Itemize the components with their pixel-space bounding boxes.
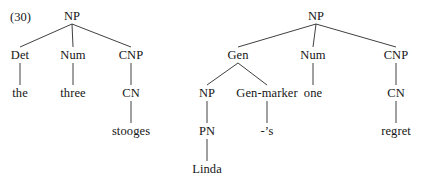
tree-node-l-num: Num [60,49,85,62]
tree-node-r-cnp: CNP [384,49,409,62]
tree-edge [313,24,316,47]
tree-node-r-np2: NP [199,87,215,100]
tree-node-r-gen: Gen [227,49,248,62]
tree-node-r-genmk: Gen-marker [236,87,297,100]
tree-edge [207,63,238,85]
tree-node-r-np: NP [308,10,324,23]
tree-node-r-regret: regret [381,125,411,138]
example-number-label: (30) [10,11,31,24]
tree-node-l-the: the [12,87,28,100]
tree-edge [316,24,396,47]
tree-node-l-cn: CN [122,87,140,100]
tree-edge [238,63,267,85]
tree-node-r-pn: PN [199,125,215,138]
tree-edge [238,24,316,47]
tree-node-l-cnp: CNP [119,49,144,62]
tree-node-r-s: -’s [261,125,274,138]
tree-node-r-num: Num [300,49,325,62]
tree-node-r-cn: CN [387,87,405,100]
tree-edge [72,24,73,47]
tree-node-l-three: three [60,87,85,100]
tree-edge [20,24,72,47]
tree-node-r-linda: Linda [192,163,222,176]
syntax-tree-figure: (30) NPDetNumCNPthethreeCNstoogesNPGenNu… [0,0,425,182]
tree-node-l-np: NP [64,10,80,23]
tree-node-l-det: Det [11,49,29,62]
tree-node-r-one: one [304,87,322,100]
tree-edge [72,24,131,47]
tree-node-l-stooges: stooges [112,125,150,138]
